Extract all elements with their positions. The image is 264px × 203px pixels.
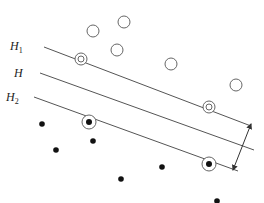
class-negative-point xyxy=(118,176,124,182)
label-h1: H1 xyxy=(9,39,23,55)
svm-margin-diagram: H1 H H2 xyxy=(0,0,264,203)
class-positive-point xyxy=(87,25,99,37)
class-negative-point xyxy=(214,198,220,203)
hyperplane-lines xyxy=(34,47,254,171)
margin-arrow xyxy=(233,124,251,170)
class-negative-point xyxy=(53,147,59,153)
class-positive-point xyxy=(118,16,130,28)
class-negative-point xyxy=(39,121,45,127)
class-negative-point xyxy=(159,164,165,170)
class-negative-support-vector xyxy=(86,119,92,125)
class-negative-support-vector xyxy=(206,161,212,167)
support-vector-ring xyxy=(203,101,215,113)
margin-width-arrow xyxy=(233,124,251,170)
support-vector-ring xyxy=(75,53,87,65)
label-h2: H2 xyxy=(5,90,19,106)
class-negative-point xyxy=(90,138,96,144)
label-h: H xyxy=(13,66,24,80)
class-positive-point xyxy=(165,58,177,70)
class-positive-point xyxy=(111,44,123,56)
class-positive-point xyxy=(230,79,242,91)
